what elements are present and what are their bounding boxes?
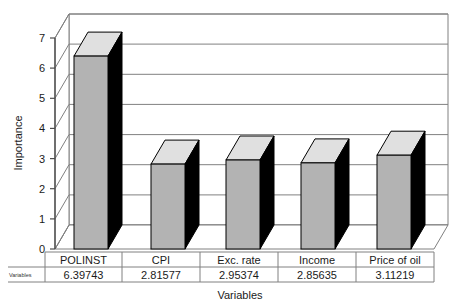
table-header-cell-2: Exc. rate <box>217 254 260 266</box>
table-value-cell-0: 6.39743 <box>64 269 104 281</box>
y-tick-label-1: 1 <box>39 213 45 225</box>
bar-income[interactable] <box>301 139 349 249</box>
x-axis-title: Variables <box>217 289 263 301</box>
bar-side-face <box>108 32 122 249</box>
table-value-cell-3: 2.85635 <box>297 269 337 281</box>
table-value-cell-4: 3.11219 <box>376 269 415 281</box>
bar-front-face <box>151 164 185 249</box>
table-header-cell-0: POLINST <box>60 254 107 266</box>
bar-front-face <box>226 160 260 249</box>
chart-figure: 7 6 5 4 3 2 1 0 Importance <box>0 0 463 306</box>
y-axis-title: Importance <box>12 115 24 170</box>
y-tick-label-3: 3 <box>39 153 45 165</box>
bar-price-of-oil[interactable] <box>377 131 425 249</box>
y-tick-label-0: 0 <box>39 243 45 255</box>
y-tick-label-5: 5 <box>39 92 45 104</box>
bar-exc-rate[interactable] <box>226 136 274 249</box>
table-stub-label: Variables <box>9 272 32 278</box>
bar-front-face <box>301 163 335 249</box>
table-header-cell-4: Price of oil <box>369 254 420 266</box>
y-tick-label-4: 4 <box>39 122 45 134</box>
bar-polinst[interactable] <box>74 32 122 249</box>
bar-front-face <box>377 155 411 249</box>
plot-left-wall <box>55 14 69 249</box>
y-tick-label-6: 6 <box>39 62 45 74</box>
table-value-cell-2: 2.95374 <box>219 269 259 281</box>
table-header-cell-1: CPI <box>152 254 170 266</box>
chart-canvas: 7 6 5 4 3 2 1 0 Importance <box>0 0 463 306</box>
table-header-cell-3: Income <box>299 254 335 266</box>
bar-cpi[interactable] <box>151 140 199 249</box>
y-tick-label-7: 7 <box>39 32 45 44</box>
y-tick-label-2: 2 <box>39 183 45 195</box>
table-value-cell-1: 2.81577 <box>141 269 181 281</box>
bar-front-face <box>74 56 108 249</box>
